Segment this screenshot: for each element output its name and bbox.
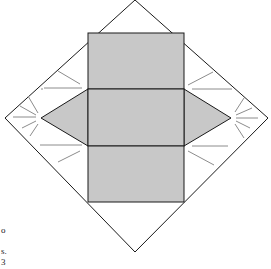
- text-fragment: 3: [1, 258, 6, 266]
- bottom-rectangle-face: [88, 146, 184, 202]
- text-fragment: o: [1, 226, 6, 234]
- text-fragment: s.: [1, 247, 7, 255]
- middle-rectangle-face: [88, 89, 184, 146]
- top-rectangle-face: [88, 33, 184, 89]
- prism-net-diagram: [0, 0, 271, 269]
